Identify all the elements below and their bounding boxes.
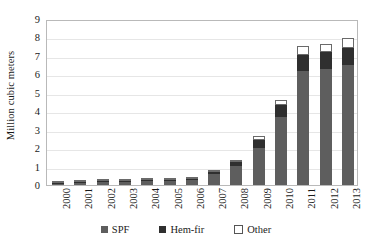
y-axis-tick: 8 bbox=[35, 33, 40, 44]
x-axis-tick: 2002 bbox=[106, 188, 117, 209]
bar-segment-spf bbox=[297, 71, 309, 185]
y-axis-title-text: Million cubic meters bbox=[6, 50, 17, 139]
x-axis-tick: 2006 bbox=[195, 188, 206, 209]
y-axis-tick: 1 bbox=[35, 162, 40, 173]
legend-swatch-other bbox=[234, 225, 243, 234]
bar-segment-spf bbox=[275, 117, 287, 185]
x-axis-tick: 2005 bbox=[173, 188, 184, 209]
bar-segment-spf bbox=[342, 65, 354, 185]
bar-segment-spf bbox=[320, 69, 332, 185]
y-axis-tick-labels: 0123456789 bbox=[20, 20, 44, 186]
x-axis-tick: 2013 bbox=[351, 188, 362, 209]
bar bbox=[208, 170, 220, 185]
y-axis-tick: 9 bbox=[35, 15, 40, 26]
bar-segment-spf bbox=[97, 182, 109, 185]
bar bbox=[97, 179, 109, 185]
bar-segment-spf bbox=[164, 181, 176, 185]
bar-segment-spf bbox=[119, 182, 131, 185]
bar bbox=[186, 177, 198, 185]
bar-segment-spf bbox=[186, 180, 198, 185]
legend-item[interactable]: Other bbox=[234, 224, 271, 235]
x-axis-tick: 2008 bbox=[239, 188, 250, 209]
y-axis-tick: 0 bbox=[35, 181, 40, 192]
legend-swatch-hem-fir bbox=[159, 226, 166, 233]
bar-segment-spf bbox=[52, 184, 64, 185]
bar-segment-spf bbox=[230, 166, 242, 185]
y-axis-tick: 6 bbox=[35, 70, 40, 81]
stacked-bar-chart: Million cubic meters 0123456789 20002001… bbox=[0, 0, 372, 245]
bar bbox=[297, 46, 309, 185]
x-axis-tick: 2000 bbox=[61, 188, 72, 209]
bar-group bbox=[47, 21, 357, 185]
x-axis-tick: 2010 bbox=[284, 188, 295, 209]
bar-segment-spf bbox=[208, 174, 220, 185]
legend-label: Other bbox=[247, 224, 271, 235]
bar bbox=[164, 178, 176, 185]
x-axis-tick: 2003 bbox=[128, 188, 139, 209]
bar-segment-hem-fir bbox=[297, 55, 309, 71]
y-axis-title: Million cubic meters bbox=[2, 0, 20, 190]
bar-segment-hem-fir bbox=[253, 140, 265, 148]
y-axis-tick: 3 bbox=[35, 125, 40, 136]
bar bbox=[230, 160, 242, 185]
bar bbox=[342, 38, 354, 185]
bar-segment-hem-fir bbox=[320, 52, 332, 69]
bar bbox=[320, 44, 332, 185]
bar bbox=[253, 136, 265, 185]
legend-item[interactable]: SPF bbox=[101, 224, 130, 235]
x-axis-tick: 2009 bbox=[262, 188, 273, 209]
x-axis-tick: 2001 bbox=[83, 188, 94, 209]
y-axis-tick: 5 bbox=[35, 89, 40, 100]
bar bbox=[74, 180, 86, 185]
bar-segment-hem-fir bbox=[275, 105, 287, 117]
bar bbox=[119, 179, 131, 185]
y-axis-tick: 7 bbox=[35, 52, 40, 63]
bar-segment-other bbox=[320, 44, 332, 52]
legend-label: SPF bbox=[112, 224, 130, 235]
plot-area bbox=[46, 20, 358, 186]
bar bbox=[275, 100, 287, 185]
bar-segment-spf bbox=[74, 183, 86, 185]
legend-swatch-spf bbox=[101, 226, 108, 233]
x-axis-tick: 2004 bbox=[150, 188, 161, 209]
bar-segment-spf bbox=[253, 148, 265, 185]
x-axis-tick: 2012 bbox=[329, 188, 340, 209]
chart-legend: SPFHem-firOther bbox=[0, 224, 372, 235]
legend-label: Hem-fir bbox=[170, 224, 204, 235]
bar-segment-other bbox=[297, 46, 309, 55]
y-axis-tick: 4 bbox=[35, 107, 40, 118]
y-axis-tick: 2 bbox=[35, 144, 40, 155]
bar-segment-other bbox=[342, 38, 354, 47]
x-axis-tick: 2011 bbox=[306, 188, 317, 209]
x-axis-tick: 2007 bbox=[217, 188, 228, 209]
bar-segment-spf bbox=[141, 181, 153, 185]
x-axis-tick-labels: 2000200120022003200420052006200720082009… bbox=[46, 188, 358, 222]
bar bbox=[52, 181, 64, 185]
bar bbox=[141, 178, 153, 185]
legend-item[interactable]: Hem-fir bbox=[159, 224, 204, 235]
bar-segment-hem-fir bbox=[342, 48, 354, 66]
